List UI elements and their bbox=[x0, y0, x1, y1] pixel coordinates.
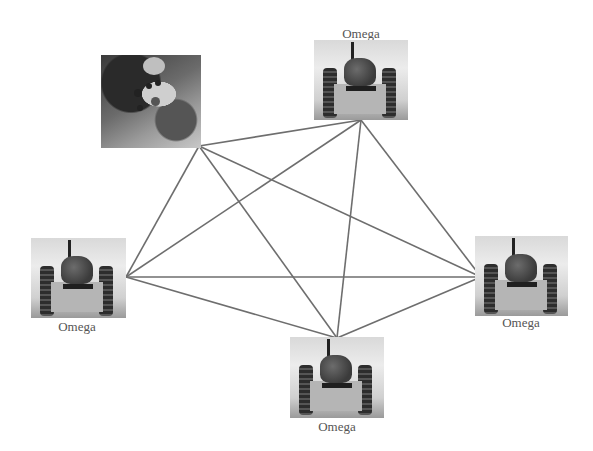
edge-controller-right bbox=[199, 146, 481, 277]
edge-controller-bottom bbox=[199, 146, 337, 338]
robot-image bbox=[314, 40, 408, 120]
front-bar bbox=[322, 383, 352, 388]
thumb-shape bbox=[143, 57, 165, 75]
robot-label: Omega bbox=[471, 315, 571, 331]
front-bar bbox=[507, 282, 537, 287]
robot-image bbox=[475, 236, 568, 316]
controller-button bbox=[134, 89, 142, 97]
edge-top-bottom bbox=[337, 120, 361, 338]
robot-label: Omega bbox=[287, 419, 387, 435]
controller-button bbox=[146, 83, 152, 89]
controller-button bbox=[151, 97, 160, 106]
edge-controller-top bbox=[199, 120, 361, 146]
edge-right-bottom bbox=[337, 277, 481, 338]
controller-button bbox=[137, 105, 143, 111]
circuit-board bbox=[61, 256, 93, 284]
circuit-board bbox=[505, 254, 537, 282]
front-bar bbox=[346, 86, 376, 91]
edge-left-bottom bbox=[126, 277, 337, 338]
robot-node-bottom: Omega bbox=[290, 337, 385, 437]
edge-top-right bbox=[361, 120, 481, 277]
front-bar bbox=[63, 284, 93, 289]
controller-button bbox=[155, 80, 161, 86]
controller-node bbox=[101, 55, 201, 148]
controller-image bbox=[101, 55, 201, 148]
network-diagram: Omega Omega Omeg bbox=[0, 0, 593, 451]
robot-image bbox=[31, 238, 126, 318]
edge-controller-left bbox=[126, 146, 199, 277]
circuit-board bbox=[320, 355, 352, 383]
robot-node-left: Omega bbox=[31, 238, 127, 338]
robot-node-right: Omega bbox=[475, 236, 570, 336]
robot-image bbox=[290, 337, 384, 418]
circuit-board bbox=[344, 58, 376, 86]
robot-node-top: Omega bbox=[314, 26, 409, 121]
robot-label: Omega bbox=[27, 319, 127, 335]
